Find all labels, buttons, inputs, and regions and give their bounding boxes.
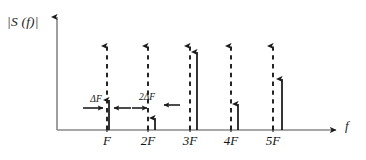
tick-label-1f: F — [103, 133, 111, 149]
spectrum-figure: |S (f)| f F 2F 3F 4F 5F ΔF 2ΔF — [0, 0, 366, 160]
tick-label-3f: 3F — [183, 133, 197, 149]
tick-label-2f: 2F — [141, 133, 155, 149]
delta-f-annotation: ΔF — [90, 94, 101, 104]
x-axis-label: f — [345, 118, 349, 134]
tick-label-4f: 4F — [224, 133, 238, 149]
measurement-arrows — [83, 105, 180, 108]
y-axis-label: |S (f)| — [7, 14, 39, 30]
tick-label-5f: 5F — [266, 133, 280, 149]
ideal-harmonic-comb — [107, 46, 273, 130]
two-delta-f-annotation: 2ΔF — [139, 92, 155, 102]
drifted-spectral-lines — [109, 52, 282, 130]
